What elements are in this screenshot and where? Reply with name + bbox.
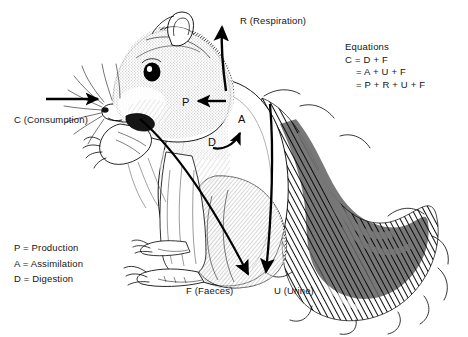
equation-line-3: = P + R + U + F [345,79,425,92]
equation-line-1: C = D + F [345,54,425,67]
label-digestion: D [208,136,216,148]
equations-title: Equations [345,41,425,54]
label-consumption: C (Consumption) [14,115,88,125]
equation-line-2: = A + U + F [345,66,425,79]
equations-block: Equations C = D + F = A + U + F = P + R … [345,41,425,91]
label-production: P [182,96,189,108]
legend-item-digestion: D = Digestion [14,271,83,287]
figure-canvas: C (Consumption) R (Respiration) P A D F … [0,0,468,337]
legend-item-assimilation: A = Assimilation [14,256,83,272]
legend-block: P = Production A = Assimilation D = Dige… [14,240,83,287]
legend-item-production: P = Production [14,240,83,256]
squirrel-legs-and-feet [124,152,206,286]
label-respiration: R (Respiration) [240,16,306,26]
label-assimilation: A [238,113,245,125]
label-faeces: F (Faeces) [186,286,233,296]
label-urine: U (Urine) [274,286,314,296]
